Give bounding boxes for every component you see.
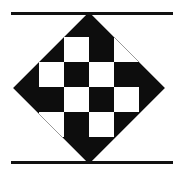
checkerboard-cell [64, 37, 89, 62]
checkerboard-cell [114, 62, 139, 87]
bottom-rule-bar [11, 161, 173, 164]
top-rule-bar [11, 12, 173, 15]
checkerboard-cell [64, 112, 89, 137]
checkerboard-cell [89, 62, 114, 87]
checkerboard-cell [89, 112, 114, 137]
checkerboard-cell [39, 87, 64, 112]
checkerboard-cell [64, 62, 89, 87]
checkerboard-cell [114, 87, 139, 112]
figure-canvas: Checkerboard Diamond Pattern [0, 0, 173, 176]
checkerboard-cell [89, 37, 114, 62]
checkerboard-cell [89, 87, 114, 112]
checkerboard-cell [39, 62, 64, 87]
checkerboard-cell [64, 87, 89, 112]
checkerboard-group [39, 37, 139, 137]
geometric-pattern-svg [0, 0, 173, 176]
